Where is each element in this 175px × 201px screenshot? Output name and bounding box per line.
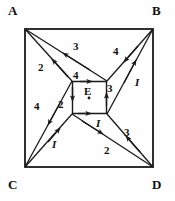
edge-label-lower-left-1: I [52, 139, 56, 150]
corner-label-b: B [152, 4, 161, 17]
edge-label-lower-right-3: 3 [124, 127, 130, 138]
edge-label-left-4: 4 [34, 101, 40, 112]
center-label-e: E [84, 86, 91, 97]
corner-label-c: C [8, 178, 17, 191]
spoke-d-to-inner-bottomright-arrow [126, 136, 140, 152]
edge-label-bottom-2: 2 [104, 145, 110, 156]
edge-label-inner-bottom-1: I [96, 118, 100, 129]
corner-label-a: A [8, 4, 17, 17]
center-dot [88, 97, 91, 100]
edge-label-inner-right-3: 3 [107, 83, 113, 94]
edge-label-upper-right-4: 4 [113, 46, 119, 57]
corner-label-d: D [152, 178, 161, 191]
spoke-inner-topright-to-a-arrow [63, 53, 90, 70]
edge-label-inner-left-2: 2 [58, 99, 64, 110]
pinwheel-square-figure: A B C D E 3 2 4 4 I 3 4 2 I I 3 2 [0, 0, 175, 201]
edge-label-inner-top-4: 4 [73, 70, 79, 81]
edge-label-upper-left-2: 2 [38, 62, 44, 73]
spoke-a-to-inner-topleft-arrow [52, 59, 68, 77]
edge-label-right-1: I [135, 77, 139, 88]
figure-canvas [0, 0, 175, 201]
edge-label-top-3: 3 [73, 41, 79, 52]
